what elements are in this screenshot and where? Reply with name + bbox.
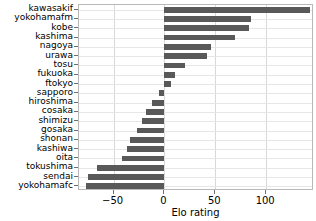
bar	[164, 16, 250, 22]
y-tick-mark	[74, 18, 78, 19]
y-tick-mark	[74, 148, 78, 149]
y-tick-mark	[74, 120, 78, 121]
y-tick-mark	[74, 46, 78, 47]
x-tick-mark	[214, 190, 215, 194]
x-tick-label: 50	[208, 195, 221, 206]
bar	[142, 118, 164, 124]
gridline-vertical	[164, 5, 165, 189]
y-tick-mark	[74, 92, 78, 93]
y-tick-mark	[74, 102, 78, 103]
y-tick-mark	[74, 55, 78, 56]
y-tick-mark	[74, 130, 78, 131]
plot-area	[78, 4, 313, 190]
y-tick-label: tokushima	[26, 162, 73, 171]
gridline-horizontal	[79, 158, 312, 159]
y-tick-mark	[74, 111, 78, 112]
bar	[164, 81, 170, 87]
y-tick-mark	[74, 176, 78, 177]
gridline-horizontal	[79, 93, 312, 94]
y-tick-mark	[74, 157, 78, 158]
x-tick-label: 0	[160, 195, 166, 206]
y-tick-mark	[74, 74, 78, 75]
bar	[164, 35, 234, 41]
y-tick-mark	[74, 37, 78, 38]
bar	[164, 44, 211, 50]
bar-chart-figure: kawasakifyokohamafmkobekashimanagoyauraw…	[0, 0, 316, 221]
bar	[122, 156, 165, 162]
x-axis-label: Elo rating	[78, 207, 313, 218]
gridline-horizontal	[79, 121, 312, 122]
bar	[164, 25, 248, 31]
bar	[164, 72, 174, 78]
x-tick-label: 100	[256, 195, 275, 206]
gridline-horizontal	[79, 103, 312, 104]
gridline-horizontal	[79, 131, 312, 132]
y-tick-mark	[74, 167, 78, 168]
bar	[130, 137, 165, 143]
y-tick-mark	[74, 83, 78, 84]
bar	[152, 100, 164, 106]
bar	[86, 183, 164, 189]
bar	[127, 146, 165, 152]
bar	[159, 90, 164, 96]
y-axis-tick-labels: kawasakifyokohamafmkobekashimanagoyauraw…	[0, 4, 73, 190]
y-tick-mark	[74, 64, 78, 65]
bar	[137, 128, 164, 134]
x-tick-mark	[163, 190, 164, 194]
bar	[164, 63, 184, 69]
bar	[164, 7, 309, 13]
y-tick-label: nagoya	[40, 41, 73, 50]
gridline-horizontal	[79, 65, 312, 66]
x-tick-label: −50	[102, 195, 123, 206]
y-tick-mark	[74, 185, 78, 186]
y-tick-label: fukuoka	[37, 69, 73, 78]
gridline-vertical	[215, 5, 216, 189]
y-tick-label: shonan	[40, 134, 73, 143]
bar	[164, 53, 207, 59]
gridline-vertical	[266, 5, 267, 189]
gridline-horizontal	[79, 149, 312, 150]
bar	[97, 165, 164, 171]
y-tick-mark	[74, 139, 78, 140]
bar	[88, 174, 164, 180]
x-tick-mark	[265, 190, 266, 194]
x-tick-mark	[113, 190, 114, 194]
y-tick-label: yokohamafc	[18, 181, 73, 190]
gridline-vertical	[114, 5, 115, 189]
gridline-horizontal	[79, 75, 312, 76]
y-tick-mark	[74, 9, 78, 10]
gridline-horizontal	[79, 140, 312, 141]
gridline-horizontal	[79, 84, 312, 85]
bar	[146, 109, 164, 115]
y-tick-mark	[74, 27, 78, 28]
gridline-horizontal	[79, 112, 312, 113]
